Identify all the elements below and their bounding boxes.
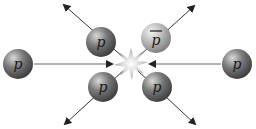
antiproton-out-upper-right: p	[141, 23, 171, 53]
particle-out-upper-left: p	[86, 27, 116, 57]
particle-incoming-left: p	[3, 49, 33, 79]
particle-out-lower-left: p	[88, 72, 118, 102]
collision-diagram: p p p p p p	[0, 0, 256, 129]
svg-text:p: p	[233, 56, 242, 72]
svg-text:p: p	[153, 79, 162, 95]
particle-incoming-right: p	[222, 49, 252, 79]
svg-text:p: p	[97, 34, 106, 50]
svg-text:p: p	[14, 56, 23, 72]
svg-text:p: p	[152, 32, 161, 48]
svg-text:p: p	[99, 79, 108, 95]
particle-out-lower-right: p	[142, 72, 172, 102]
